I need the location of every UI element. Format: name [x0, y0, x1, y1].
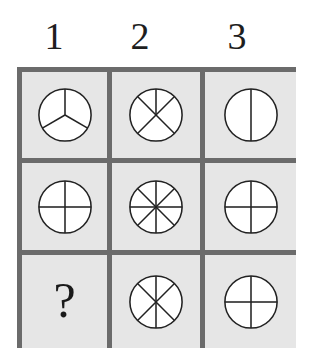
divided-circle-icon — [127, 273, 185, 331]
grid-cell-r1-c1 — [22, 72, 107, 158]
grid-cell-r3-c2 — [112, 255, 200, 348]
grid-cell-r3-c3 — [205, 255, 296, 348]
divided-circle-icon — [127, 86, 185, 144]
question-mark: ? — [53, 275, 75, 325]
grid-cell-r2-c1 — [22, 163, 107, 250]
grid-cell-r2-c3 — [205, 163, 296, 250]
puzzle-grid: ? — [17, 67, 296, 348]
divided-circle-icon — [36, 86, 94, 144]
divided-circle-icon — [127, 178, 185, 236]
divided-circle-icon — [36, 178, 94, 236]
column-label-1: 1 — [24, 14, 84, 58]
grid-cell-r3-c1[interactable]: ? — [22, 255, 107, 348]
divided-circle-icon — [222, 86, 280, 144]
grid-cell-r1-c3 — [205, 72, 296, 158]
grid-cell-r1-c2 — [112, 72, 200, 158]
grid-cell-r2-c2 — [112, 163, 200, 250]
column-label-2: 2 — [110, 14, 170, 58]
divided-circle-icon — [222, 273, 280, 331]
column-label-3: 3 — [207, 14, 267, 58]
divided-circle-icon — [222, 178, 280, 236]
